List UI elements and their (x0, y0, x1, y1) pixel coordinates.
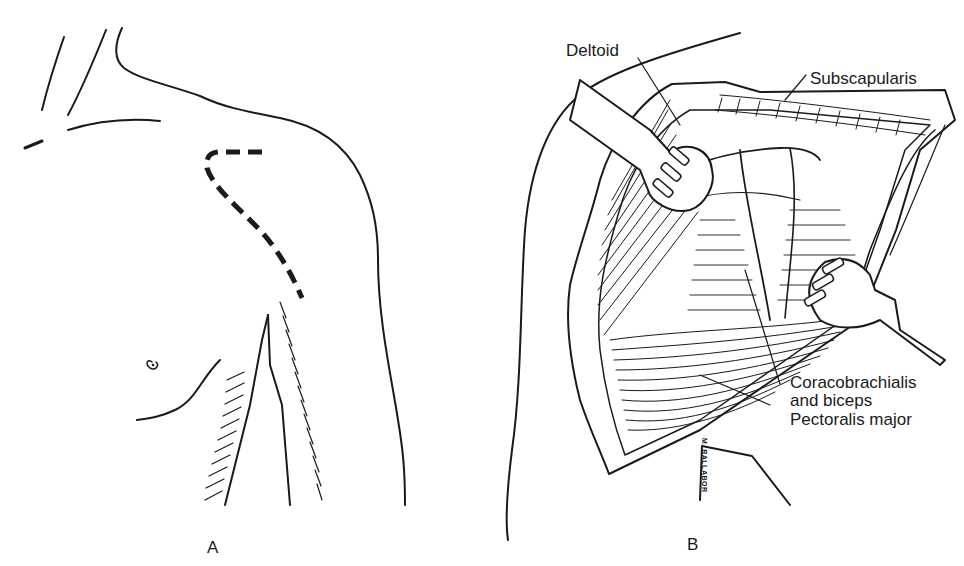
hatching-left (205, 372, 244, 500)
panel-label-a: A (207, 538, 218, 558)
label-coracobrachialis-2: and biceps (790, 391, 872, 410)
incision-line (207, 152, 302, 298)
label-subscapularis: Subscapularis (810, 69, 917, 88)
label-pectoralis-major: Pectoralis major (790, 410, 912, 429)
panel-label-b: B (687, 535, 698, 555)
label-coracobrachialis: Coracobrachialis (790, 373, 917, 392)
panel-b-drawing (507, 33, 955, 540)
label-deltoid: Deltoid (566, 41, 619, 60)
artist-signature: M. RALLABOR (701, 438, 708, 493)
panel-a-drawing (25, 28, 405, 505)
upper-retractor (570, 80, 713, 211)
